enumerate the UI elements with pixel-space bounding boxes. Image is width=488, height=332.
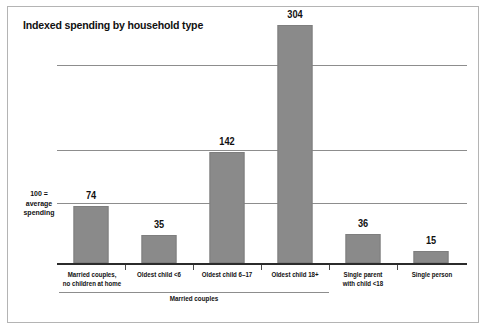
bar-group-3: 304	[261, 47, 329, 263]
x-axis-line	[57, 263, 467, 265]
plot-area: 74 35 142 304 36 15	[57, 47, 467, 263]
bar-0[interactable]	[74, 206, 109, 263]
category-label-1: Oldest child <6	[127, 271, 190, 280]
category-label-2: Oldest child 6–17	[195, 271, 258, 280]
axis-tick-1	[125, 265, 126, 270]
index-annotation-line-1: 100 =	[20, 189, 59, 199]
index-annotation-line-3: spending	[20, 208, 59, 218]
bar-value-5: 15	[426, 235, 436, 246]
category-label-5-line-1: Single person	[399, 271, 464, 280]
bar-value-3: 304	[287, 9, 302, 20]
category-label-4-line-1: Single parent	[331, 271, 394, 280]
bar-3[interactable]	[278, 25, 313, 263]
bar-group-2: 142	[193, 47, 261, 263]
category-label-0: Married couples, no children at home	[56, 271, 129, 288]
bar-value-4: 36	[358, 218, 368, 229]
bar-group-0: 74	[57, 47, 125, 263]
chart-title: Indexed spending by household type	[23, 19, 203, 31]
bar-5[interactable]	[414, 251, 449, 263]
category-group-bracket	[59, 292, 329, 293]
axis-tick-5	[397, 265, 398, 270]
index-annotation: 100 = average spending	[20, 189, 59, 218]
category-label-4: Single parent with child <18	[331, 271, 394, 288]
bar-value-0: 74	[86, 190, 96, 201]
bar-value-1: 35	[154, 219, 164, 230]
bar-group-5: 15	[397, 47, 465, 263]
category-label-1-line-1: Oldest child <6	[127, 271, 190, 280]
bar-1[interactable]	[142, 235, 177, 263]
bar-group-1: 35	[125, 47, 193, 263]
axis-tick-4	[329, 265, 330, 270]
bar-4[interactable]	[346, 234, 381, 263]
category-label-0-line-2: no children at home	[56, 280, 129, 289]
category-label-3: Oldest child 18+	[263, 271, 326, 280]
chart-frame: Indexed spending by household type 100 =…	[7, 6, 479, 323]
category-label-3-line-1: Oldest child 18+	[263, 271, 326, 280]
category-label-5: Single person	[399, 271, 464, 280]
bar-value-2: 142	[219, 136, 234, 147]
axis-tick-2	[193, 265, 194, 270]
category-label-0-line-1: Married couples,	[56, 271, 129, 280]
bar-2[interactable]	[210, 152, 245, 263]
axis-tick-3	[261, 265, 262, 270]
category-label-4-line-2: with child <18	[331, 280, 394, 289]
index-annotation-line-2: average	[20, 199, 59, 209]
category-group-label: Married couples	[68, 295, 319, 302]
bar-group-4: 36	[329, 47, 397, 263]
category-label-2-line-1: Oldest child 6–17	[195, 271, 258, 280]
